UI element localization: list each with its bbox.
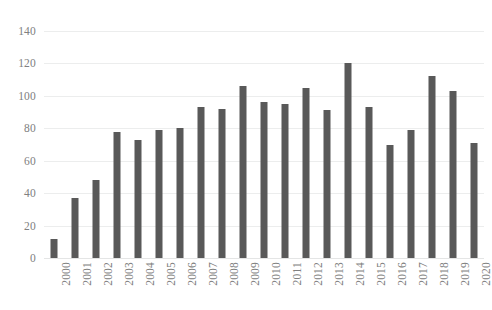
bar-slot xyxy=(442,31,463,258)
bar[interactable] xyxy=(365,107,372,258)
y-tick-label: 20 xyxy=(24,220,36,232)
x-tick-slot: 2010 xyxy=(254,260,275,310)
x-axis: 2000200120022003200420052006200720082009… xyxy=(44,260,484,310)
x-tick-slot: 2003 xyxy=(107,260,128,310)
x-tick-slot: 2002 xyxy=(86,260,107,310)
x-tick-slot: 2017 xyxy=(400,260,421,310)
x-tick-slot: 2020 xyxy=(463,260,484,310)
y-tick-label: 140 xyxy=(18,25,36,37)
bar[interactable] xyxy=(449,91,456,258)
x-tick-slot: 2011 xyxy=(274,260,295,310)
bar[interactable] xyxy=(72,198,79,258)
bar-slot xyxy=(358,31,379,258)
bar[interactable] xyxy=(93,180,100,258)
bar[interactable] xyxy=(219,109,226,258)
bar[interactable] xyxy=(302,88,309,258)
bar-slot xyxy=(295,31,316,258)
x-tick-slot: 2004 xyxy=(128,260,149,310)
plot-area xyxy=(44,31,484,258)
bar[interactable] xyxy=(281,104,288,258)
bar[interactable] xyxy=(407,130,414,258)
bar-slot xyxy=(316,31,337,258)
bar-slot xyxy=(86,31,107,258)
bar[interactable] xyxy=(177,128,184,258)
bar-slot xyxy=(463,31,484,258)
bar[interactable] xyxy=(240,86,247,258)
bar-slot xyxy=(400,31,421,258)
y-tick-label: 80 xyxy=(24,122,36,134)
bar[interactable] xyxy=(114,132,121,258)
x-tick-slot: 2012 xyxy=(295,260,316,310)
bar[interactable] xyxy=(470,143,477,258)
x-tick-slot: 2000 xyxy=(44,260,65,310)
bar-slot xyxy=(274,31,295,258)
x-tick-slot: 2019 xyxy=(442,260,463,310)
x-tick-slot: 2014 xyxy=(337,260,358,310)
x-tick-slot: 2018 xyxy=(421,260,442,310)
y-tick-label: 40 xyxy=(24,187,36,199)
bar[interactable] xyxy=(260,102,267,258)
bar[interactable] xyxy=(135,140,142,258)
bar-slot xyxy=(149,31,170,258)
bar-slot xyxy=(44,31,65,258)
bar-slot xyxy=(212,31,233,258)
x-tick-slot: 2008 xyxy=(212,260,233,310)
x-tick-slot: 2009 xyxy=(233,260,254,310)
bar[interactable] xyxy=(51,239,58,258)
bar[interactable] xyxy=(198,107,205,258)
x-tick-slot: 2015 xyxy=(358,260,379,310)
bar-slot xyxy=(421,31,442,258)
bar[interactable] xyxy=(323,110,330,258)
bar[interactable] xyxy=(156,130,163,258)
bar-slot xyxy=(337,31,358,258)
bar[interactable] xyxy=(386,145,393,259)
gridline xyxy=(44,258,484,259)
y-tick-label: 0 xyxy=(30,252,36,264)
bar-slot xyxy=(65,31,86,258)
bar-slot xyxy=(254,31,275,258)
x-tick-slot: 2016 xyxy=(379,260,400,310)
x-tick-slot: 2005 xyxy=(149,260,170,310)
x-tick-slot: 2006 xyxy=(170,260,191,310)
bar-slot xyxy=(379,31,400,258)
y-axis: 020406080100120140 xyxy=(0,0,42,310)
x-tick-slot: 2007 xyxy=(191,260,212,310)
bar[interactable] xyxy=(344,63,351,258)
bar-slot xyxy=(233,31,254,258)
bar-slot xyxy=(128,31,149,258)
y-tick-label: 100 xyxy=(18,90,36,102)
x-tick-slot: 2001 xyxy=(65,260,86,310)
bar-slot xyxy=(170,31,191,258)
y-tick-label: 60 xyxy=(24,155,36,167)
x-tick-label: 2020 xyxy=(480,262,492,286)
bar[interactable] xyxy=(428,76,435,258)
x-tick-slot: 2013 xyxy=(316,260,337,310)
bar-slot xyxy=(107,31,128,258)
bar-slot xyxy=(191,31,212,258)
bars-layer xyxy=(44,31,484,258)
y-tick-label: 120 xyxy=(18,57,36,69)
